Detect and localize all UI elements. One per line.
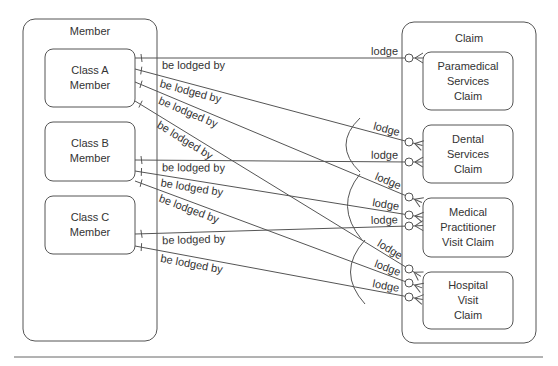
svg-text:Paramedical: Paramedical xyxy=(437,60,498,72)
entity-class-b-member: Class B Member xyxy=(45,122,135,181)
svg-text:Services: Services xyxy=(447,75,490,87)
svg-text:Claim: Claim xyxy=(454,90,482,102)
svg-text:Member: Member xyxy=(70,226,111,238)
svg-text:Claim: Claim xyxy=(454,309,482,321)
entity-hospital-visit-claim: Hospital Visit Claim xyxy=(423,272,513,329)
claim-role-label: lodge xyxy=(371,213,398,226)
claim-group-title: Claim xyxy=(455,32,483,44)
svg-text:Class B: Class B xyxy=(71,137,109,149)
zero-circle-icon xyxy=(405,265,413,273)
member-group-title: Member xyxy=(70,25,111,37)
relationship-lines: be lodged bylodgebe lodged bylodgebe lod… xyxy=(135,45,424,304)
member-role-label: be lodged by xyxy=(162,232,226,246)
claim-role-label: lodge xyxy=(372,120,401,139)
entity-class-c-member: Class C Member xyxy=(45,196,135,254)
svg-text:Hospital: Hospital xyxy=(448,279,488,291)
zero-circle-icon xyxy=(405,222,413,230)
member-role-label: be lodged by xyxy=(157,192,221,225)
svg-text:Class C: Class C xyxy=(71,211,110,223)
relationship-class-a-paramedical: be lodged bylodge xyxy=(135,45,423,71)
svg-text:Member: Member xyxy=(70,152,111,164)
zero-circle-icon xyxy=(405,54,413,62)
exclusivity-arc-hospital xyxy=(351,240,366,304)
zero-circle-icon xyxy=(405,138,413,146)
zero-circle-icon xyxy=(405,279,413,287)
svg-text:Member: Member xyxy=(70,79,111,91)
claim-role-label: lodge xyxy=(372,277,401,294)
svg-text:Dental: Dental xyxy=(452,133,484,145)
zero-circle-icon xyxy=(405,158,413,166)
svg-text:Visit: Visit xyxy=(458,294,479,306)
member-role-label: be lodged by xyxy=(162,59,225,71)
member-role-label: be lodged by xyxy=(160,252,225,275)
member-role-label: be lodged by xyxy=(162,161,226,173)
zero-circle-icon xyxy=(405,211,413,219)
zero-circle-icon xyxy=(405,293,413,301)
relationship-class-c-hospital: be lodged bylodge xyxy=(135,243,424,304)
claim-role-label: lodge xyxy=(371,45,398,57)
svg-text:Practitioner: Practitioner xyxy=(440,221,496,233)
entity-dental-services-claim: Dental Services Claim xyxy=(423,125,513,183)
svg-text:Medical: Medical xyxy=(449,206,487,218)
svg-text:Visit Claim: Visit Claim xyxy=(442,236,494,248)
entity-class-a-member: Class A Member xyxy=(45,49,135,107)
zero-circle-icon xyxy=(405,193,413,201)
svg-text:Claim: Claim xyxy=(454,163,482,175)
svg-text:Services: Services xyxy=(447,148,490,160)
claim-role-label: lodge xyxy=(371,149,398,161)
svg-text:Class A: Class A xyxy=(71,64,109,76)
entity-medical-practitioner-visit-claim: Medical Practitioner Visit Claim xyxy=(423,198,513,257)
er-diagram: Member Claim Class A Member Class B Memb… xyxy=(0,0,558,366)
entity-paramedical-services-claim: Paramedical Services Claim xyxy=(423,52,513,110)
